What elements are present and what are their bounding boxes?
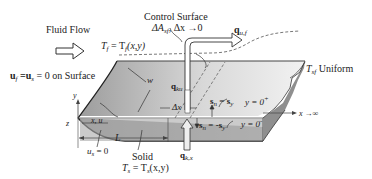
- q-ku-arrow: [185, 90, 190, 113]
- x-infinity-label: x →∞: [299, 108, 318, 119]
- fluid-flow-label: Fluid Flow: [46, 24, 90, 35]
- solid-label: Solid: [132, 151, 153, 162]
- length-label: L: [115, 132, 121, 143]
- sn-bottom-label: sn = -sy: [199, 120, 225, 131]
- solid-temperature-label: Ts = Ts(x,y): [122, 162, 169, 173]
- no-slip-condition-label: uf =us = 0 on Surface: [10, 70, 95, 81]
- fluid-temperature-label: Tf = Tf(x,y): [101, 40, 145, 51]
- fluid-flow-arrow: [56, 43, 84, 59]
- z-axis-label: z: [66, 118, 69, 129]
- surface-temperature-label: Tsf Uniform: [306, 63, 353, 74]
- y-axis: [76, 99, 80, 148]
- y-zero-minus-label: y = 0-: [241, 119, 262, 130]
- boundary-layer-edge: [119, 31, 300, 55]
- width-label: w: [147, 75, 153, 86]
- plate-front-face: [78, 118, 263, 141]
- q-u-f-label: qu,f: [234, 24, 247, 35]
- control-surface-condition: ΔAsf, Δx →0: [152, 22, 203, 33]
- y-zero-plus-label: y = 0+: [245, 97, 269, 108]
- y-axis-label: y: [73, 90, 77, 101]
- q-kx-label: qk,x: [180, 150, 193, 161]
- delta-x-label: Δx: [172, 102, 181, 113]
- solid-velocity-label: us = 0: [87, 146, 108, 157]
- q-ku-label: qku: [171, 81, 183, 92]
- x-axis-label: x, u: [91, 115, 103, 126]
- sn-top-label: sn = sy: [210, 96, 233, 107]
- plate-top-surface: [78, 61, 305, 118]
- control-surface-title: Control Surface: [144, 11, 208, 22]
- diagram-canvas: Fluid Flow Control Surface ΔAsf, Δx →0 q…: [0, 0, 372, 179]
